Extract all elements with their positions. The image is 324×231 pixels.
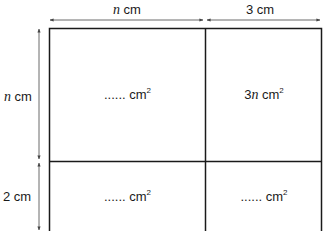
cell-bottom-left: ...... cm2 bbox=[50, 162, 205, 231]
top-label-3-cm: 3 cm bbox=[246, 3, 274, 16]
cell-top-right: 3n cm2 bbox=[206, 29, 322, 161]
cell-top-left: ...... cm2 bbox=[50, 29, 205, 161]
left-label-2-cm: 2 cm bbox=[3, 190, 31, 203]
left-label-n-cm: n cm bbox=[4, 90, 32, 104]
cell-bottom-left-label: ...... cm2 bbox=[104, 190, 151, 204]
cell-bottom-right-label: ...... cm2 bbox=[240, 190, 287, 204]
cell-top-right-label: 3n cm2 bbox=[244, 88, 284, 102]
cell-bottom-right: ...... cm2 bbox=[206, 162, 322, 231]
cell-top-left-label: ...... cm2 bbox=[104, 88, 151, 102]
top-label-n-cm: n cm bbox=[113, 3, 141, 17]
